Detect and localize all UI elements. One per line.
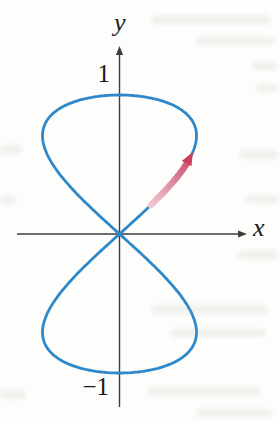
parametric-figure-eight-plot: y x 1 −1 [0, 0, 280, 422]
bleed-smudge [152, 305, 268, 314]
y-axis-arrowhead-icon [116, 46, 123, 55]
direction-arrow-shaft [151, 165, 186, 205]
bleed-smudge [196, 409, 272, 417]
y-tick-label-neg1: −1 [72, 374, 109, 399]
bleed-smudge [256, 84, 278, 92]
plot-canvas [0, 0, 280, 422]
bleed-smudge [0, 196, 16, 204]
bleed-smudge [152, 15, 270, 24]
y-tick-label-1: 1 [86, 61, 110, 86]
bleed-smudge [246, 195, 278, 203]
bleed-smudge [148, 387, 260, 396]
bleed-smudge [238, 250, 278, 259]
bleed-smudge [0, 145, 22, 154]
x-axis-arrowhead-icon [238, 230, 247, 237]
bleed-smudge [0, 390, 26, 399]
bleed-smudge [252, 62, 278, 70]
bleed-smudge [240, 150, 278, 159]
bleed-smudge [196, 37, 274, 45]
x-axis-label: x [253, 215, 265, 241]
bleed-smudge [170, 329, 266, 337]
y-axis-label: y [114, 10, 126, 36]
